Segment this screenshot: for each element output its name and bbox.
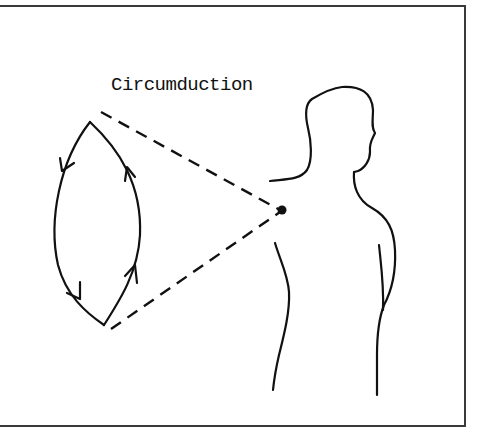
head-and-shoulder-outline [270, 87, 375, 181]
chest-outline [273, 243, 289, 390]
pivot-point [278, 206, 287, 215]
motion-path [55, 122, 141, 325]
diagram-canvas: Circumduction [0, 0, 478, 442]
arm-back-outline [379, 245, 383, 310]
upper-dashed-line [101, 112, 280, 210]
circumduction-drawing [0, 0, 478, 442]
back-outline [354, 172, 395, 395]
human-figure-outline [270, 87, 395, 395]
motion-path-right-arc [90, 122, 140, 325]
direction-arrows [60, 158, 137, 299]
